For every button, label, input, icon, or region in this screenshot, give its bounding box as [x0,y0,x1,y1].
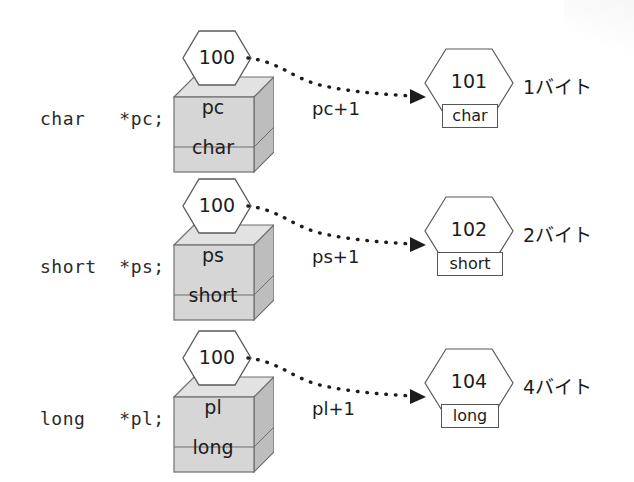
pointer-arithmetic-diagram: char *pc; pc char 100 [0,0,634,482]
offset-expression-label: pl+1 [312,398,355,419]
target-type-box: char [442,104,498,128]
pointer-type-label: short [174,284,252,306]
diagram-row: long *pl; pl long 100 pl+1 [0,312,634,462]
offset-expression-label: ps+1 [312,246,359,267]
diagram-row: char *pc; pc char 100 [0,12,634,162]
declaration-text: long *pl; [40,408,165,429]
target-type-box: short [437,252,503,276]
pointer-type-label: char [174,136,252,158]
declaration-text: char *pc; [40,108,165,129]
target-type-box: long [441,404,499,428]
target-address-value: 102 [424,218,514,240]
byte-size-label: 4バイト [523,372,592,399]
byte-size-label: 1バイト [523,72,592,99]
declaration-text: short *ps; [40,256,165,277]
diagram-row: short *ps; ps short 100 ps+1 [0,160,634,310]
target-address-value: 104 [424,370,514,392]
pointer-type-label: long [174,436,252,458]
byte-size-label: 2バイト [523,220,592,247]
offset-expression-label: pc+1 [312,98,360,119]
target-address-value: 101 [424,70,514,92]
